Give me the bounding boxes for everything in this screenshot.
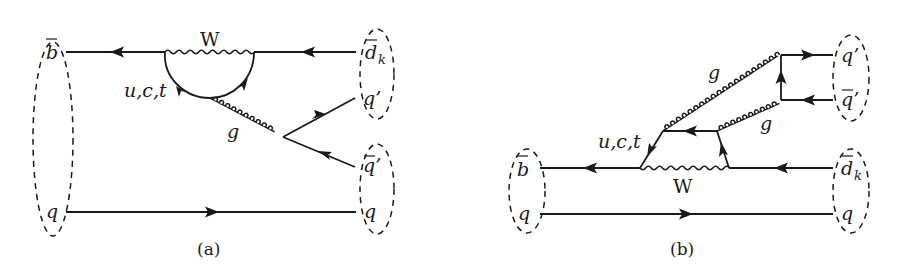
w-label: W: [200, 28, 220, 50]
gluon-lower-label: g: [760, 112, 772, 134]
feynman-diagram-figure: b q W u,c,t g d k q’ q’ q (a): [0, 0, 898, 272]
w-boson-line: [165, 50, 255, 54]
q-prime-label: q’: [841, 44, 859, 66]
d-k-subscript: k: [378, 52, 386, 67]
q-prime-fermion-line: [283, 98, 355, 137]
q-right-label: q: [841, 202, 853, 224]
q-prime-label: q’: [363, 87, 381, 109]
gluon-line: [210, 97, 275, 132]
b-bar-label: b: [46, 41, 58, 63]
q-prime-bar-fermion-line: [283, 137, 355, 167]
gluon-upper-label: g: [708, 61, 720, 83]
loop-quarks-label: u,c,t: [124, 79, 167, 101]
q-left-label: q: [46, 200, 58, 222]
d-k-label: d: [365, 41, 377, 63]
w-boson-line: [640, 166, 730, 170]
q-prime-bar-label: q’: [841, 88, 859, 110]
arrow-up-icon: [719, 142, 728, 157]
gluon-label: g: [227, 120, 239, 142]
d-k-label: d: [841, 157, 853, 179]
loop-quarks-label: u,c,t: [598, 130, 641, 152]
w-label: W: [673, 175, 693, 197]
panel-a: b q W u,c,t g d k q’ q’ q (a): [33, 28, 394, 259]
q-prime-bar-label: q’: [363, 154, 381, 176]
arrow-up-left-icon: [318, 151, 332, 160]
q-left-label: q: [518, 202, 530, 224]
panel-b: b q W u,c,t g g d k q’ q’ q (b): [509, 35, 869, 259]
q-right-label: q: [364, 200, 376, 222]
arrow-down-left-icon: [647, 143, 657, 157]
panel-b-caption: (b): [670, 239, 694, 259]
panel-a-caption: (a): [197, 239, 220, 259]
arrow-down-left-icon: [237, 78, 248, 91]
d-k-subscript: k: [854, 168, 862, 183]
b-bar-label: b: [517, 158, 529, 180]
